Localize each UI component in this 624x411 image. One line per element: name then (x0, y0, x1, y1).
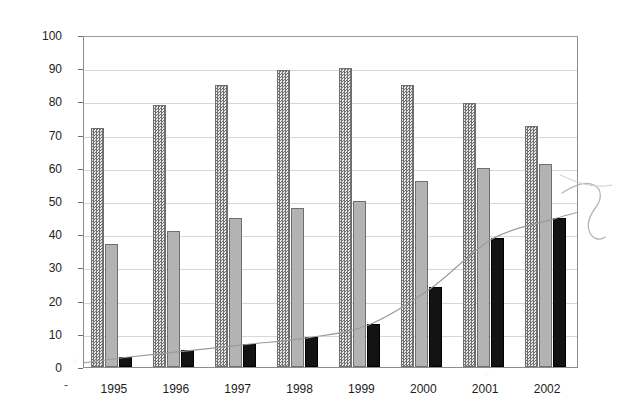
bar-1995-series-2-gray (105, 244, 118, 367)
y-tick-label: 80 (18, 95, 62, 109)
bar-group (463, 37, 504, 367)
bar-2000-series-2-gray (415, 181, 428, 367)
y-tick-label: 40 (18, 228, 62, 242)
y-tick-label: 60 (18, 162, 62, 176)
y-tick-label: 100 (18, 29, 62, 43)
x-tick-label: 2002 (534, 382, 561, 396)
plot-area (83, 36, 578, 368)
bar-group (401, 37, 442, 367)
bar-1996-series-2-gray (167, 231, 180, 367)
bar-1997-series-1-dotted (215, 85, 228, 367)
bar-2001-series-2-gray (477, 168, 490, 367)
bar-group (525, 37, 566, 367)
bar-2002-series-1-dotted (525, 126, 538, 367)
x-tick-label: 1997 (224, 382, 251, 396)
bar-group (339, 37, 380, 367)
bar-group (277, 37, 318, 367)
y-tick-label: 0 (18, 361, 62, 375)
chart-figure: Minutes (billions) 010203040506070809010… (0, 0, 624, 411)
x-axis: 19951996199719981999200020012002 (83, 370, 578, 410)
bar-2001-series-3-black (491, 238, 504, 367)
x-tick-label: 1998 (286, 382, 313, 396)
y-tick-label: 90 (18, 62, 62, 76)
y-tick-mark (78, 368, 83, 369)
x-tick-label: 2000 (410, 382, 437, 396)
x-tick-label: 1996 (162, 382, 189, 396)
bar-2000-series-1-dotted (401, 85, 414, 367)
x-tick-label: 1999 (348, 382, 375, 396)
x-tick-label: 2001 (472, 382, 499, 396)
bar-1998-series-3-black (305, 337, 318, 367)
bar-1997-series-2-gray (229, 218, 242, 367)
bar-1997-series-3-black (243, 344, 256, 367)
bar-1996-series-1-dotted (153, 105, 166, 367)
bar-1999-series-3-black (367, 324, 380, 367)
bar-1999-series-2-gray (353, 201, 366, 367)
bar-2002-series-3-black (553, 218, 566, 367)
bar-1998-series-1-dotted (277, 70, 290, 367)
bar-group (153, 37, 194, 367)
bar-groups (84, 37, 577, 367)
y-tick-label: 70 (18, 129, 62, 143)
bar-2002-series-2-gray (539, 164, 552, 367)
bar-1995-series-3-black (119, 357, 132, 367)
x-tick-label: 1995 (101, 382, 128, 396)
bar-2000-series-3-black (429, 287, 442, 367)
bar-2001-series-1-dotted (463, 103, 476, 367)
axis-origin-marker: - (64, 378, 68, 392)
y-tick-label: 10 (18, 328, 62, 342)
bar-1998-series-2-gray (291, 208, 304, 367)
y-tick-label: 30 (18, 261, 62, 275)
bar-1999-series-1-dotted (339, 68, 352, 367)
bar-1996-series-3-black (181, 350, 194, 367)
bar-1995-series-1-dotted (91, 128, 104, 367)
bar-group (91, 37, 132, 367)
y-tick-label: 50 (18, 195, 62, 209)
bar-group (215, 37, 256, 367)
y-tick-label: 20 (18, 295, 62, 309)
